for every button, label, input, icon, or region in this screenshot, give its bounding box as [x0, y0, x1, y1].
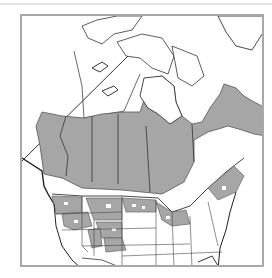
montana-range — [86, 198, 122, 220]
great-slave-lake — [102, 86, 118, 96]
range-map — [22, 16, 264, 267]
nunavut-border — [124, 74, 140, 111]
great-lakes-range — [156, 202, 190, 226]
map-frame — [20, 14, 264, 267]
us-mexico-border — [82, 258, 122, 267]
baffin-island — [172, 46, 204, 86]
dakotas-range — [122, 198, 156, 212]
us-atlantic-coast — [218, 192, 236, 267]
utah-range — [88, 228, 102, 248]
florida — [198, 256, 220, 267]
great-bear-lake — [92, 62, 108, 72]
arctic-islands-2 — [117, 34, 174, 74]
greenland — [218, 16, 264, 50]
top-divider — [0, 3, 272, 5]
